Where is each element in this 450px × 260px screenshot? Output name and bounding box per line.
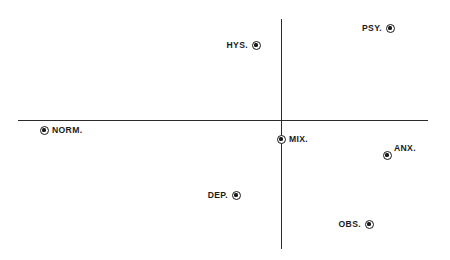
bullseye-marker-icon	[386, 24, 395, 33]
data-point-label: ANX.	[394, 144, 416, 153]
bullseye-marker-icon	[277, 135, 286, 144]
data-point-label: DEP.	[208, 191, 228, 200]
data-point-label: PSY.	[362, 24, 382, 33]
bullseye-marker-icon	[40, 126, 49, 135]
data-point-label: HYS.	[227, 41, 248, 50]
data-point-label: OBS.	[339, 220, 361, 229]
bullseye-marker-icon	[232, 191, 241, 200]
bullseye-marker-icon	[252, 41, 261, 50]
data-point-label: MIX.	[289, 135, 308, 144]
data-point-label: NORM.	[52, 126, 82, 135]
scatter-plot-figure: PSY.HYS.NORM.MIX.ANX.DEP.OBS.	[0, 0, 450, 260]
bullseye-marker-icon	[365, 220, 374, 229]
x-axis-line	[18, 120, 428, 121]
bullseye-marker-icon	[383, 151, 392, 160]
